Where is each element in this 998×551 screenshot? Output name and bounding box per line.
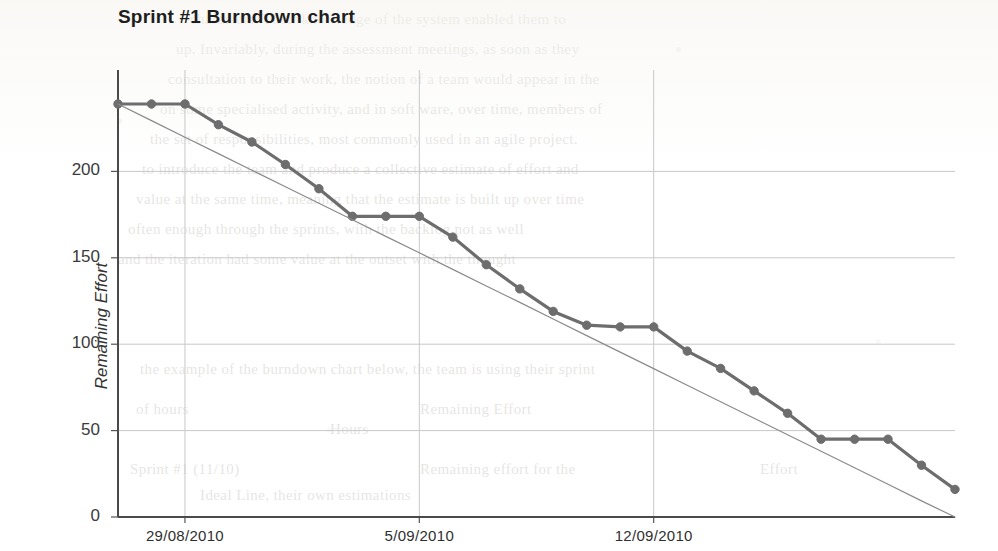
data-point-marker xyxy=(315,185,323,193)
series-remaining-effort xyxy=(114,100,959,494)
data-point-marker xyxy=(616,323,624,331)
data-point-marker xyxy=(248,138,256,146)
data-point-marker xyxy=(683,347,691,355)
data-point-marker xyxy=(650,323,658,331)
data-point-marker xyxy=(482,261,490,269)
data-point-marker xyxy=(449,233,457,241)
series-line xyxy=(118,104,955,517)
data-point-marker xyxy=(549,307,557,315)
data-point-marker xyxy=(817,435,825,443)
data-point-marker xyxy=(716,364,724,372)
data-point-marker xyxy=(884,435,892,443)
data-point-marker xyxy=(516,285,524,293)
data-point-marker xyxy=(281,160,289,168)
data-point-marker xyxy=(147,100,155,108)
series-line xyxy=(118,104,955,489)
data-point-marker xyxy=(951,485,959,493)
data-point-marker xyxy=(850,435,858,443)
plot-area xyxy=(0,0,998,551)
data-point-marker xyxy=(783,409,791,417)
series-ideal-line xyxy=(118,104,955,517)
data-point-marker xyxy=(214,121,222,129)
data-point-marker xyxy=(917,461,925,469)
data-series-layer xyxy=(114,100,959,517)
data-point-marker xyxy=(750,387,758,395)
burndown-chart: Sprint #1 Burndown chart Remaining Effor… xyxy=(0,0,998,551)
data-point-marker xyxy=(583,321,591,329)
data-point-marker xyxy=(415,212,423,220)
data-point-marker xyxy=(181,100,189,108)
data-point-marker xyxy=(382,212,390,220)
